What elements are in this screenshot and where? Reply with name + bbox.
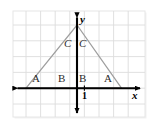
segment-label-right-inner: B xyxy=(79,73,86,84)
segment-label-left-base: A xyxy=(32,73,40,84)
segment-label-right-base: A xyxy=(104,73,112,84)
segment-label-right-side: C xyxy=(79,38,86,49)
y-axis-label: y xyxy=(80,14,85,25)
segment-label-left-inner: B xyxy=(58,73,65,84)
segment-label-left-side: C xyxy=(64,38,71,49)
x-axis-label: x xyxy=(132,90,138,101)
coordinate-plane-figure: A B B A C C 1 x y xyxy=(0,0,160,132)
x-axis-tick-label: 1 xyxy=(82,91,87,101)
